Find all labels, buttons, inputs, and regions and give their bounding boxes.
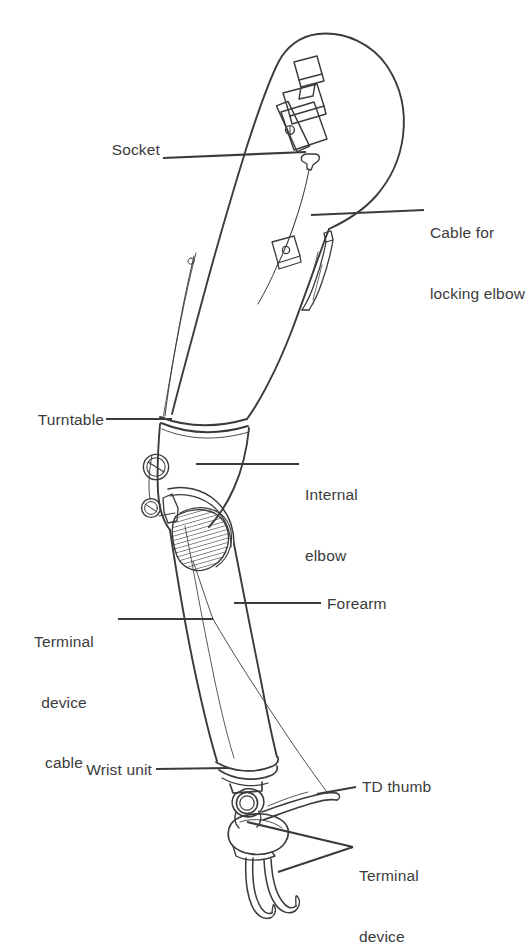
elbow-hinge-lower — [142, 499, 161, 518]
turntable-band-thin — [162, 429, 249, 438]
elbow-linkage-curve — [149, 455, 152, 499]
forearm-outline-right — [234, 544, 277, 757]
elbow-hatched-panel — [160, 495, 250, 590]
socket-outline-left — [172, 34, 318, 414]
cable-line — [277, 170, 309, 266]
leader-lines — [106, 152, 424, 872]
terminal-device-hook — [228, 792, 339, 918]
leader-cable-for-locking-elbow — [311, 210, 424, 215]
td-body — [228, 814, 288, 860]
leader-wrist-unit — [156, 768, 229, 769]
turntable-band-top — [160, 417, 247, 425]
leader-socket — [163, 152, 306, 158]
cable-housing — [302, 231, 333, 310]
locking-cable — [258, 154, 333, 310]
cable-line-lower — [258, 266, 277, 304]
cable-retainer — [272, 236, 301, 269]
leader-terminal-device-upper — [247, 822, 353, 847]
harness-buckle — [276, 56, 327, 154]
leader-terminal-device-lower — [278, 847, 353, 872]
td-cable — [213, 619, 327, 792]
socket-outline-right — [318, 34, 404, 229]
elbow-hinge-upper — [143, 454, 168, 479]
cable-pull-tab — [301, 154, 319, 170]
elbow-block-right — [209, 428, 249, 527]
wrist-unit-body — [216, 757, 278, 793]
